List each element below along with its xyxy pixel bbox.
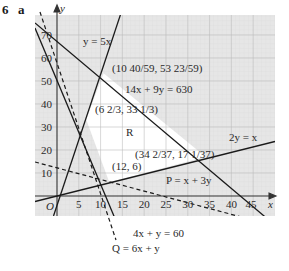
- svg-text:5: 5: [76, 198, 82, 210]
- label-p-objective: P = x + 3y: [166, 174, 212, 186]
- svg-text:60: 60: [41, 52, 53, 64]
- svg-text:20: 20: [41, 144, 53, 156]
- svg-text:40: 40: [226, 198, 238, 210]
- origin-label: O: [46, 200, 54, 212]
- label-4x-y-60: 4x + y = 60: [133, 227, 184, 239]
- svg-text:10: 10: [41, 167, 53, 179]
- region-label: R: [126, 126, 134, 138]
- label-14x-9y-630: 14x + 9y = 630: [125, 83, 193, 95]
- vertex-label-1: (10 40/59, 53 23/59): [112, 62, 203, 75]
- svg-text:35: 35: [204, 198, 216, 210]
- label-2y-equals-x: 2y = x: [229, 131, 258, 143]
- svg-text:15: 15: [117, 198, 129, 210]
- svg-text:30: 30: [182, 198, 194, 210]
- svg-text:30: 30: [41, 121, 53, 133]
- svg-text:45: 45: [246, 198, 258, 210]
- x-axis-label: x: [267, 198, 273, 210]
- svg-text:20: 20: [139, 198, 151, 210]
- svg-text:50: 50: [41, 75, 53, 87]
- vertex-label-2: (6 2/3, 33 1/3): [95, 103, 158, 116]
- label-y-equals-5x: y = 5x: [83, 35, 112, 47]
- vertex-label-4: (12, 6): [112, 160, 142, 173]
- vertex-label-3: (34 2/37, 17 1/37): [135, 148, 215, 161]
- svg-text:10: 10: [95, 198, 107, 210]
- svg-text:70: 70: [41, 29, 53, 41]
- svg-text:25: 25: [161, 198, 173, 210]
- x-tick-labels: 5 10 15 20 25 30 35 40 45: [76, 198, 257, 210]
- svg-text:40: 40: [41, 98, 53, 110]
- label-q-objective: Q = 6x + y: [112, 242, 160, 254]
- lp-graph: 5 10 15 20 25 30 35 40 45 10 20 30 40 50…: [0, 0, 289, 271]
- y-axis-label: y: [59, 2, 65, 14]
